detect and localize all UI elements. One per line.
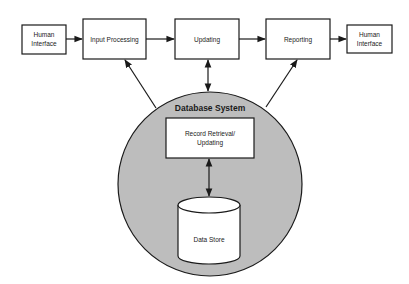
svg-text:Data Store: Data Store	[193, 236, 224, 243]
svg-text:Updating: Updating	[194, 36, 220, 44]
input-processing-node: Input Processing	[83, 19, 146, 59]
updating-node: Updating	[175, 19, 239, 59]
arrow-db-to-input	[125, 60, 156, 108]
record-retrieval-node: Record Retrieval/ Updating	[166, 118, 254, 158]
svg-text:Record Retrieval/: Record Retrieval/	[185, 130, 235, 137]
reporting-node: Reporting	[266, 19, 330, 59]
database-system-label: Database System	[175, 103, 246, 113]
human-interface-right-node: Human Interface	[347, 25, 392, 53]
svg-text:Interface: Interface	[357, 40, 383, 47]
data-store-cylinder: Data Store	[178, 197, 240, 264]
svg-text:Reporting: Reporting	[284, 36, 313, 44]
arrow-db-to-reporting	[266, 60, 297, 107]
svg-text:Updating: Updating	[197, 139, 223, 147]
svg-text:Human: Human	[359, 31, 380, 38]
svg-text:Input Processing: Input Processing	[90, 36, 139, 44]
database-system-diagram: Database System Human Interface Input Pr…	[0, 0, 409, 284]
human-interface-left-node: Human Interface	[22, 25, 66, 54]
svg-text:Interface: Interface	[31, 40, 57, 47]
svg-text:Human: Human	[34, 31, 55, 38]
